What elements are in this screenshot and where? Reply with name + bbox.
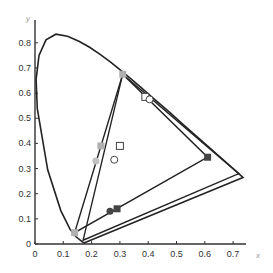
x-tick-label: 0.7 xyxy=(227,249,240,259)
axes: 00.10.20.30.40.50.60.700.10.20.30.40.50.… xyxy=(18,14,261,260)
y-tick-label: 0.3 xyxy=(18,164,31,174)
chromaticity-diagram: 00.10.20.30.40.50.60.700.10.20.30.40.50.… xyxy=(0,0,273,273)
x-tick-label: 0.2 xyxy=(85,249,98,259)
x-tick-label: 0.3 xyxy=(114,249,127,259)
gray-circles-marker xyxy=(92,158,99,165)
gray-squares-marker xyxy=(119,71,126,78)
x-tick-label: 0.5 xyxy=(170,249,183,259)
open-circles-marker xyxy=(111,156,118,163)
y-tick-label: 0.5 xyxy=(18,113,31,123)
spectral-locus xyxy=(36,34,243,243)
x-tick-label: 0.4 xyxy=(142,249,155,259)
y-tick-label: 0.8 xyxy=(18,38,31,48)
x-tick-label: 0.1 xyxy=(57,249,70,259)
gamut-1-triangle xyxy=(75,74,208,233)
dark-square-marker xyxy=(114,205,121,212)
x-tick-label: 0.6 xyxy=(199,249,212,259)
open-squares-marker xyxy=(116,142,123,149)
open-circles-marker xyxy=(146,96,153,103)
dark-square-marker xyxy=(204,154,211,161)
y-tick-label: 0.1 xyxy=(18,214,31,224)
y-tick-label: 0.6 xyxy=(18,88,31,98)
x-tick-label: 0 xyxy=(32,249,37,259)
y-tick-label: 0.7 xyxy=(18,63,31,73)
dark-circle-marker xyxy=(106,208,113,215)
y-axis-label: y xyxy=(25,14,31,23)
y-tick-label: 0 xyxy=(26,239,31,249)
y-tick-label: 0.2 xyxy=(18,189,31,199)
gray-squares-marker xyxy=(71,229,78,236)
gray-squares-marker xyxy=(97,142,104,149)
x-axis-label: x xyxy=(255,251,261,260)
plot-area xyxy=(36,34,243,243)
y-tick-label: 0.4 xyxy=(18,138,31,148)
